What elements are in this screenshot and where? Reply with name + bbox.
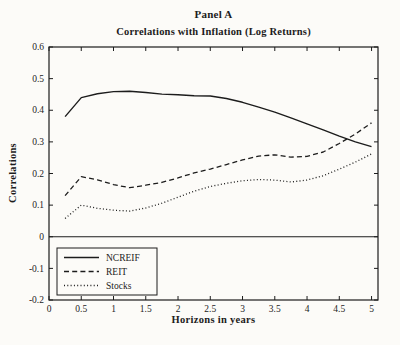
- y-tick-label: 0.3: [32, 137, 44, 147]
- y-tick-label: 0.6: [32, 42, 44, 52]
- series-ncreif-line: [65, 91, 371, 146]
- y-tick-label: 0.5: [32, 74, 44, 84]
- x-tick-label: 0: [47, 304, 52, 314]
- y-tick-label: -0.2: [29, 295, 44, 305]
- x-tick-label: 4: [305, 304, 310, 314]
- y-tick-label: -0.1: [29, 264, 44, 274]
- figure-page: Panel A Correlations with Inflation (Log…: [0, 0, 400, 345]
- legend-label: NCREIF: [106, 253, 140, 263]
- y-tick-label: 0.1: [32, 200, 44, 210]
- x-tick-label: 4.5: [333, 304, 345, 314]
- x-tick-label: 3: [240, 304, 245, 314]
- x-tick-label: 1.5: [140, 304, 152, 314]
- y-tick-label: 0.2: [32, 169, 44, 179]
- x-tick-label: 1: [111, 304, 116, 314]
- x-tick-label: 5: [369, 304, 374, 314]
- x-tick-labels: 00.511.522.533.544.55: [47, 304, 375, 314]
- x-tick-label: 2.5: [204, 304, 216, 314]
- correlation-line-chart: 00.511.522.533.544.55-0.2-0.100.10.20.30…: [0, 0, 400, 345]
- y-tick-label: 0.4: [32, 105, 44, 115]
- series-stocks-line: [65, 154, 371, 219]
- y-tick-labels: -0.2-0.100.10.20.30.40.50.6: [29, 42, 44, 305]
- y-tick-label: 0: [39, 232, 44, 242]
- legend-label: Stocks: [106, 281, 132, 291]
- legend: NCREIFREITStocks: [57, 248, 157, 295]
- legend-label: REIT: [106, 267, 127, 277]
- x-tick-label: 3.5: [269, 304, 281, 314]
- x-tick-label: 2: [176, 304, 181, 314]
- x-axis-label: Horizons in years: [49, 314, 378, 325]
- x-tick-label: 0.5: [75, 304, 87, 314]
